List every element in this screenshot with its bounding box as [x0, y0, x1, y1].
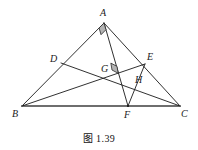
geometry-figure: ADEGHBFC 图 1.39 [0, 0, 198, 150]
vertex-dot-layer [127, 105, 129, 107]
segment-AB [22, 23, 104, 106]
segment-AC [104, 23, 180, 106]
segment-DC [61, 63, 180, 106]
vertex-label-D: D [50, 54, 57, 64]
vertex-label-A: A [100, 8, 106, 18]
vertex-label-G: G [101, 64, 108, 74]
geometry-canvas [0, 0, 198, 150]
vertex-dot-F [127, 105, 129, 107]
vertex-label-E: E [147, 52, 153, 62]
vertex-label-H: H [135, 75, 142, 85]
segment-EF [128, 64, 145, 106]
vertex-label-C: C [181, 109, 188, 119]
right-angle-marker-angle-at-A [99, 23, 106, 35]
vertex-label-F: F [124, 110, 130, 120]
vertex-label-B: B [12, 109, 18, 119]
right-angle-marker-angle-at-G [111, 63, 118, 73]
figure-caption: 图 1.39 [0, 130, 198, 145]
